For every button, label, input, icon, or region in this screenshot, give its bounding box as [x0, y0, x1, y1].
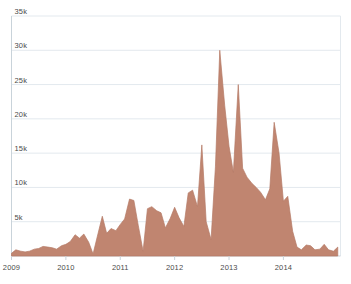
- y-tick-label: 10k: [15, 178, 28, 187]
- chart-container: 5k10k15k20k25k30k35k 2009201020112012201…: [0, 0, 351, 284]
- y-tick-label: 25k: [15, 76, 28, 85]
- x-axis-ticks: [12, 256, 284, 260]
- y-tick-label: 30k: [15, 41, 28, 50]
- x-tick-label: 2012: [155, 263, 195, 272]
- grid-lines: [12, 16, 341, 222]
- x-tick-label: 2009: [0, 263, 32, 272]
- y-tick-label: 20k: [15, 110, 28, 119]
- y-tick-label: 15k: [15, 144, 28, 153]
- y-tick-label: 5k: [15, 213, 23, 222]
- x-tick-label: 2013: [209, 263, 249, 272]
- x-tick-label: 2010: [46, 263, 86, 272]
- x-tick-label: 2011: [100, 263, 140, 272]
- x-tick-label: 2014: [263, 263, 303, 272]
- y-tick-label: 35k: [15, 7, 28, 16]
- area-chart-plot: [0, 0, 351, 284]
